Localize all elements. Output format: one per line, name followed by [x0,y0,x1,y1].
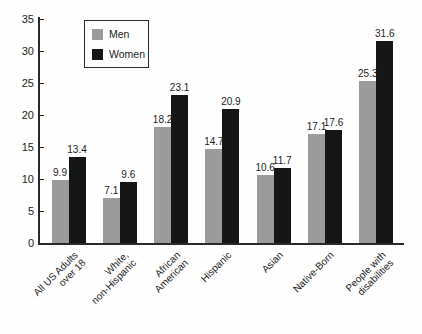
legend-label-men: Men [109,29,129,40]
x-tick-label-2: African American [145,250,190,295]
bar-men-4 [257,175,274,243]
value-label-women-6: 31.6 [365,28,405,39]
bar-men-5 [308,134,325,243]
y-tick-0 [39,243,44,245]
legend-swatch-men [92,29,103,40]
y-tick-10 [39,179,44,181]
y-tick-20 [39,115,44,117]
bar-men-6 [359,81,376,243]
y-tick-30 [39,51,44,53]
y-tick-35 [39,19,44,21]
y-tick-5 [39,211,44,213]
value-label-men-3: 14.7 [194,136,234,147]
value-label-women-1: 9.6 [108,169,148,180]
y-tick-label-10: 10 [4,173,34,185]
bar-women-5 [325,130,342,243]
y-tick-label-30: 30 [4,45,34,57]
y-tick-label-15: 15 [4,141,34,153]
x-tick-label-1: White, non-Hispanic [83,250,139,306]
x-tick-label-0: All US Adults over 18 [32,250,88,306]
y-tick-25 [39,83,44,85]
bar-chart-figure: 05101520253035 9.913.47.19.618.223.114.7… [0,0,422,334]
legend-item-men: Men [92,27,148,42]
x-axis-line [38,243,404,245]
value-label-women-0: 13.4 [57,144,97,155]
bar-women-3 [222,109,239,243]
x-tick-label-6: People with disabilities [344,250,395,301]
x-tick-label-4: Asian [260,250,285,275]
bar-men-3 [205,149,222,243]
bar-women-4 [274,168,291,243]
legend-item-women: Women [92,47,148,62]
value-label-men-2: 18.2 [143,114,183,125]
y-tick-15 [39,147,44,149]
bar-men-2 [154,127,171,243]
value-label-women-5: 17.6 [314,117,354,128]
y-tick-label-35: 35 [4,13,34,25]
x-tick-label-3: Hispanic [199,250,234,285]
value-label-men-6: 25.3 [348,68,388,79]
value-label-women-2: 23.1 [160,82,200,93]
y-tick-label-20: 20 [4,109,34,121]
y-tick-label-25: 25 [4,77,34,89]
legend-label-women: Women [109,49,145,60]
legend-swatch-women [92,49,103,60]
legend: MenWomen [84,20,149,68]
bar-men-0 [52,180,69,243]
value-label-men-1: 7.1 [91,185,131,196]
y-tick-label-5: 5 [4,205,34,217]
value-label-men-0: 9.9 [40,167,80,178]
x-tick-label-5: Native-Born [292,250,337,295]
y-tick-label-0: 0 [4,237,34,249]
bar-men-1 [103,198,120,243]
value-label-women-4: 11.7 [262,155,302,166]
value-label-women-3: 20.9 [211,96,251,107]
